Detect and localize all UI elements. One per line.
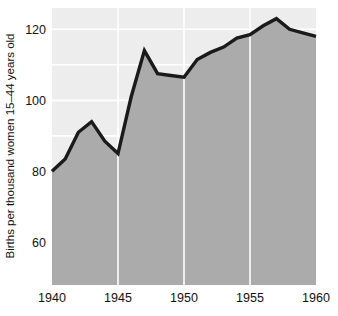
chart-container: 6080100120 19401945195019551960 Births p…: [0, 0, 338, 316]
y-tick-label-100: 100: [25, 94, 46, 108]
x-tick-label-1955: 1955: [236, 291, 264, 305]
x-tick-label-1940: 1940: [38, 291, 66, 305]
y-tick-label-80: 80: [32, 165, 46, 179]
y-tick-label-120: 120: [25, 23, 46, 37]
y-axis-title: Births per thousand women 15–44 years ol…: [4, 33, 16, 258]
x-tick-label-1960: 1960: [302, 291, 330, 305]
y-tick-label-60: 60: [32, 236, 46, 250]
x-tick-label-1950: 1950: [170, 291, 198, 305]
x-tick-label-1945: 1945: [104, 291, 132, 305]
birth-rate-area-chart: 6080100120 19401945195019551960 Births p…: [0, 0, 338, 316]
